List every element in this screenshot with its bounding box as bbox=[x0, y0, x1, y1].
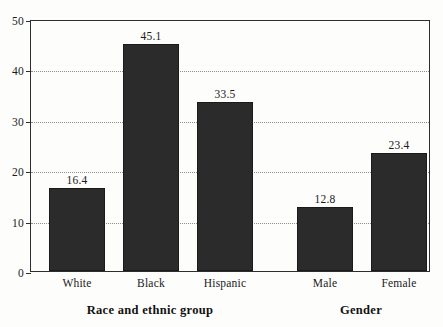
bar-value-hispanic: 33.5 bbox=[215, 88, 236, 100]
y-tick-mark-40 bbox=[26, 71, 31, 72]
bar-white: 16.4 White bbox=[49, 188, 105, 271]
gridline-40 bbox=[31, 71, 429, 72]
y-tick-label-50: 50 bbox=[12, 15, 24, 27]
group-title-gender: Gender bbox=[340, 303, 382, 318]
y-tick-label-30: 30 bbox=[12, 116, 24, 128]
y-tick-mark-30 bbox=[26, 122, 31, 123]
bar-value-female: 23.4 bbox=[389, 139, 410, 151]
bar-female: 23.4 Female bbox=[371, 153, 427, 271]
category-label-male: Male bbox=[313, 277, 337, 289]
bar-black: 45.1 Black bbox=[123, 44, 179, 271]
bar-chart: 0 10 20 30 40 50 16.4 White 45.1 B bbox=[0, 0, 443, 327]
y-tick-mark-0 bbox=[26, 273, 31, 274]
y-tick-mark-50 bbox=[26, 21, 31, 22]
category-label-female: Female bbox=[381, 277, 416, 289]
y-tick-label-20: 20 bbox=[12, 166, 24, 178]
bar-value-black: 45.1 bbox=[141, 30, 162, 42]
category-label-hispanic: Hispanic bbox=[204, 277, 246, 289]
category-label-black: Black bbox=[137, 277, 165, 289]
category-label-white: White bbox=[62, 277, 91, 289]
bar-male: 12.8 Male bbox=[297, 207, 353, 272]
bar-value-white: 16.4 bbox=[67, 174, 88, 186]
y-tick-mark-10 bbox=[26, 223, 31, 224]
bar-hispanic: 33.5 Hispanic bbox=[197, 102, 253, 271]
y-tick-label-40: 40 bbox=[12, 65, 24, 77]
y-tick-mark-20 bbox=[26, 172, 31, 173]
y-tick-label-10: 10 bbox=[12, 217, 24, 229]
group-title-race: Race and ethnic group bbox=[87, 303, 214, 318]
plot-area: 0 10 20 30 40 50 16.4 White 45.1 B bbox=[30, 20, 430, 272]
y-tick-label-0: 0 bbox=[18, 267, 24, 279]
bar-value-male: 12.8 bbox=[315, 193, 336, 205]
